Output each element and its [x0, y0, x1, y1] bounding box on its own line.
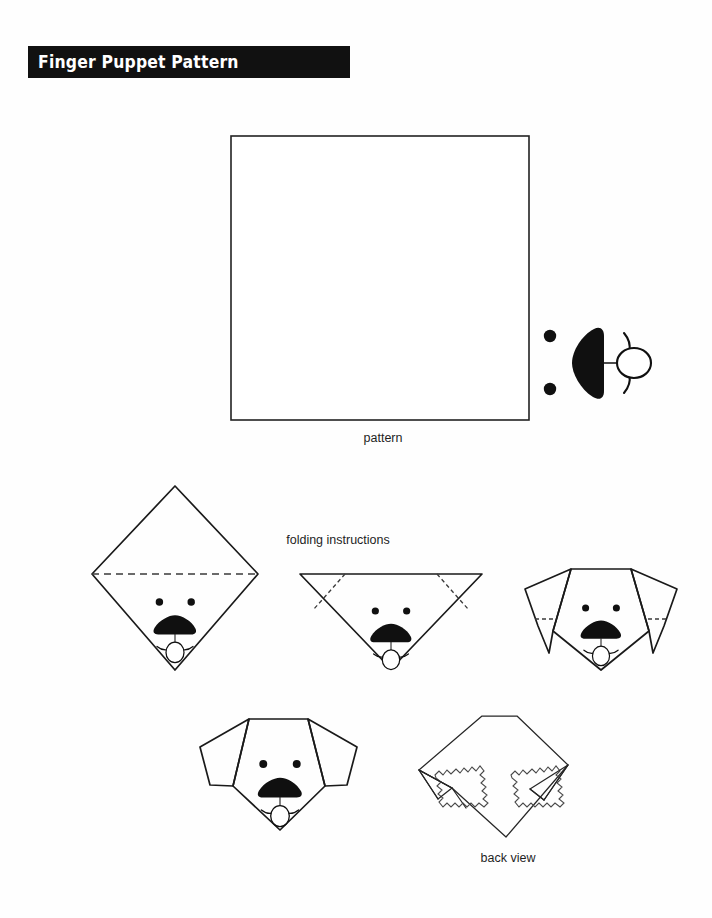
step2-dog-face [370, 607, 411, 669]
dog-nose-icon [154, 615, 197, 634]
dog-eye-right-icon [187, 598, 194, 605]
pattern-square-outline [231, 136, 529, 420]
caption-back-view: back view [408, 851, 608, 865]
dog-nose-icon [581, 621, 621, 639]
title-banner: Finger Puppet Pattern [28, 46, 350, 78]
step4-ear-left [200, 719, 249, 786]
back-view-flap-right-edge [544, 765, 568, 800]
back-view-outline [419, 716, 568, 837]
step1-diamond-figure [86, 480, 264, 680]
step4-dog-face [258, 760, 302, 827]
page-canvas: Finger Puppet Pattern pattern folding in… [0, 0, 712, 918]
dog-eye-right-icon [544, 330, 556, 342]
back-view-figure [416, 702, 602, 846]
dog-eye-right-icon [613, 604, 620, 611]
dog-eye-left-icon [156, 598, 163, 605]
dog-eye-right-icon [293, 760, 301, 768]
page-title: Finger Puppet Pattern [28, 52, 239, 72]
dog-tongue [382, 650, 399, 670]
dog-tongue [617, 348, 651, 378]
dog-tongue [592, 646, 609, 665]
dog-nose-icon [258, 778, 302, 798]
step3-ears-figure [518, 556, 684, 678]
dog-eye-left-icon [582, 604, 589, 611]
dog-eye-right-icon [403, 607, 410, 614]
pattern-square-figure [228, 133, 532, 423]
step4-finished-figure [188, 702, 376, 836]
dog-eye-left-icon [544, 383, 556, 395]
dog-nose-icon [572, 328, 604, 399]
dog-eye-left-icon [259, 760, 267, 768]
dog-nose-icon [370, 624, 411, 643]
dog-eye-left-icon [372, 607, 379, 614]
step2-triangle-figure [292, 566, 488, 678]
caption-pattern: pattern [283, 431, 483, 445]
step3-dog-face [581, 604, 621, 665]
dog-tongue [166, 642, 184, 662]
dog-tongue [271, 806, 290, 827]
step4-ear-right [308, 719, 357, 786]
pattern-dog-face [544, 328, 651, 399]
